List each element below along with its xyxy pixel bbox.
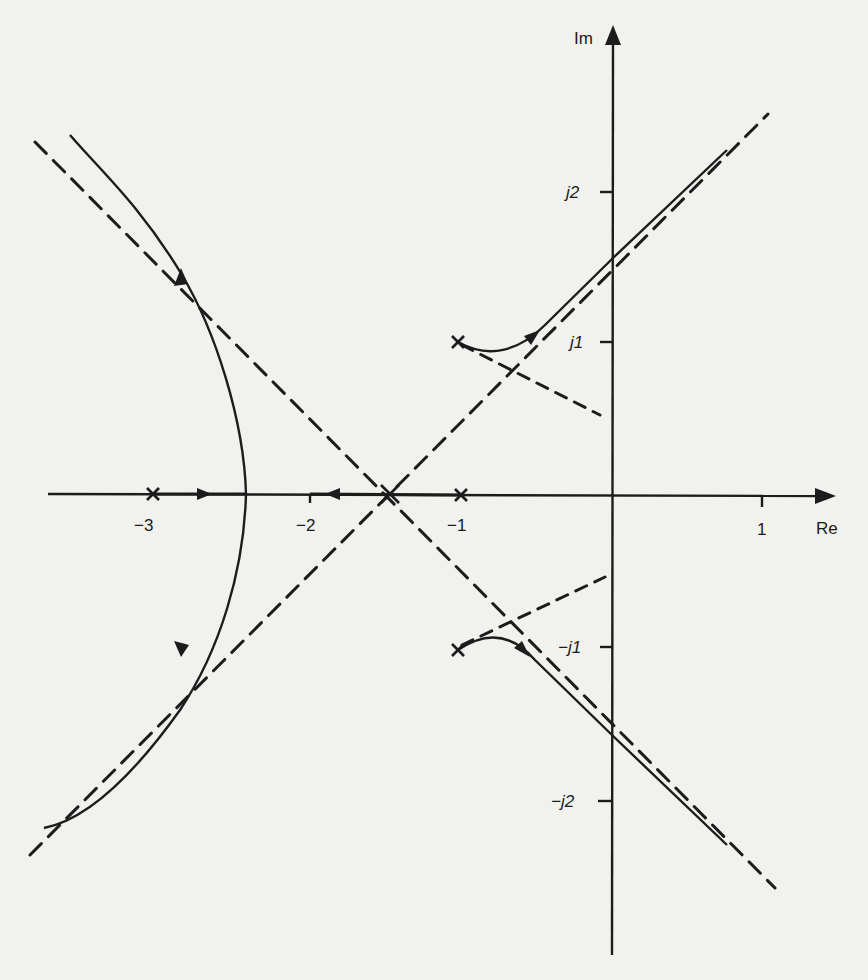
departure-line-lower (462, 577, 605, 645)
arrow-right-icon (197, 488, 212, 500)
tick-label-minus-3: −3 (134, 516, 153, 535)
tick-label-j1: j1 (568, 333, 583, 352)
arrow-down-left-icon (174, 641, 189, 657)
real-axis-arrow-icon (815, 488, 836, 504)
departure-line-upper (462, 345, 600, 415)
arrow-up-left-icon (174, 268, 188, 286)
asymptote-135-315 (35, 142, 775, 888)
asymptote-45-225 (30, 114, 768, 855)
pole-upper-complex-icon (452, 336, 464, 348)
tick-label-1: 1 (757, 520, 766, 539)
imaginary-axis-label: Im (574, 29, 593, 48)
imaginary-axis-arrow-icon (605, 25, 621, 45)
asymptotes (30, 114, 775, 888)
tick-label-j2: j2 (564, 183, 580, 202)
arrow-upper-branch-icon (524, 330, 540, 345)
pole-lower-complex-icon (452, 644, 464, 656)
tick-label-minus-2: −2 (296, 516, 315, 535)
tick-label-minus-j1: −j1 (558, 638, 581, 657)
tick-label-minus-1: −1 (447, 516, 466, 535)
real-axis-label: Re (816, 519, 838, 538)
left-branch-lower (44, 494, 246, 828)
imaginary-axis (605, 25, 621, 955)
tick-label-minus-j2: −j2 (551, 792, 575, 811)
upper-complex-branch (458, 150, 727, 351)
root-locus-diagram: Im Re −3 −2 −1 1 j2 j1 −j1 −j2 (0, 0, 868, 980)
lower-complex-branch (458, 637, 727, 845)
arrow-left-icon (325, 488, 340, 500)
left-branch-upper (70, 135, 246, 494)
